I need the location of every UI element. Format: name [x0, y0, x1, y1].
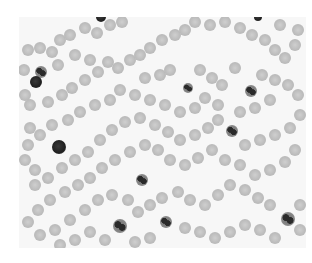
red-blood-cell [34, 229, 46, 241]
red-blood-cell [269, 232, 281, 244]
red-blood-cell [129, 236, 141, 248]
red-blood-cell [66, 82, 78, 94]
red-blood-cell [104, 94, 116, 106]
red-blood-cell [79, 22, 91, 34]
red-blood-cell [91, 27, 103, 39]
white-blood-cell [30, 76, 42, 88]
red-blood-cell [99, 234, 111, 246]
red-blood-cell [294, 109, 306, 121]
white-blood-cell [245, 85, 257, 97]
red-blood-cell [179, 159, 191, 171]
red-blood-cell [114, 84, 126, 96]
red-blood-cell [152, 144, 164, 156]
red-blood-cell [22, 139, 34, 151]
red-blood-cell [216, 79, 228, 91]
red-blood-cell [219, 154, 231, 166]
white-blood-cell [52, 140, 66, 154]
red-blood-cell [264, 94, 276, 106]
red-blood-cell [94, 134, 106, 146]
red-blood-cell [174, 134, 186, 146]
red-blood-cell [104, 19, 116, 31]
red-blood-cell [69, 234, 81, 246]
red-blood-cell [292, 89, 304, 101]
red-blood-cell [112, 62, 124, 74]
red-blood-cell [19, 154, 31, 166]
red-blood-cell [199, 199, 211, 211]
red-blood-cell [24, 99, 36, 111]
red-blood-cell [29, 179, 41, 191]
red-blood-cell [49, 224, 61, 236]
red-blood-cell [69, 49, 81, 61]
red-blood-cell [134, 112, 146, 124]
red-blood-cell [74, 106, 86, 118]
red-blood-cell [19, 64, 30, 76]
red-blood-cell [256, 69, 268, 81]
white-blood-cell [113, 219, 127, 233]
red-blood-cell [212, 99, 224, 111]
red-blood-cell [249, 102, 261, 114]
red-blood-cell [254, 134, 266, 146]
red-blood-cell [29, 164, 41, 176]
red-blood-cell [162, 126, 174, 138]
red-blood-cell [79, 74, 91, 86]
red-blood-cell [279, 52, 291, 64]
red-blood-cell [116, 17, 128, 28]
red-blood-cell [209, 232, 221, 244]
red-blood-cell [254, 224, 266, 236]
red-blood-cell [106, 124, 118, 136]
red-blood-cell [249, 169, 261, 181]
white-blood-cell [183, 83, 193, 93]
red-blood-cell [84, 54, 96, 66]
red-blood-cell [69, 154, 81, 166]
red-blood-cell [294, 199, 306, 211]
red-blood-cell [289, 144, 301, 156]
red-blood-cell [239, 184, 251, 196]
red-blood-cell [79, 204, 91, 216]
red-blood-cell [106, 189, 118, 201]
red-blood-cell [174, 106, 186, 118]
red-blood-cell [179, 222, 191, 234]
red-blood-cell [144, 42, 156, 54]
red-blood-cell [156, 34, 168, 46]
red-blood-cell [194, 226, 206, 238]
red-blood-cell [164, 154, 176, 166]
red-blood-cell [122, 194, 134, 206]
red-blood-cell [56, 162, 68, 174]
red-blood-cell [139, 139, 151, 151]
red-blood-cell [149, 119, 161, 131]
red-blood-cell [62, 114, 74, 126]
red-blood-cell [92, 194, 104, 206]
red-blood-cell [54, 239, 66, 248]
red-blood-cell [159, 99, 171, 111]
red-blood-cell [24, 122, 36, 134]
red-blood-cell [234, 159, 246, 171]
red-blood-cell [184, 194, 196, 206]
red-blood-cell [202, 122, 214, 134]
red-blood-cell [156, 192, 168, 204]
red-blood-cell [212, 114, 224, 126]
red-blood-cell [189, 102, 201, 114]
red-blood-cell [212, 189, 224, 201]
red-blood-cell [34, 129, 46, 141]
red-blood-cell [246, 29, 258, 41]
red-blood-cell [292, 24, 304, 36]
red-blood-cell [34, 42, 46, 54]
red-blood-cell [239, 139, 251, 151]
red-blood-cell [59, 186, 71, 198]
red-blood-cell [84, 226, 96, 238]
red-blood-cell [194, 64, 206, 76]
red-blood-cell [289, 39, 301, 51]
red-blood-cell [219, 17, 231, 28]
red-blood-cell [22, 216, 34, 228]
red-blood-cell [264, 199, 276, 211]
blood-smear-image [19, 17, 306, 248]
red-blood-cell [42, 96, 54, 108]
red-blood-cell [206, 144, 218, 156]
red-blood-cell [84, 172, 96, 184]
red-blood-cell [109, 154, 121, 166]
red-blood-cell [224, 226, 236, 238]
red-blood-cell [224, 179, 236, 191]
white-blood-cell [254, 17, 262, 21]
red-blood-cell [274, 19, 286, 31]
white-blood-cell [226, 125, 238, 137]
